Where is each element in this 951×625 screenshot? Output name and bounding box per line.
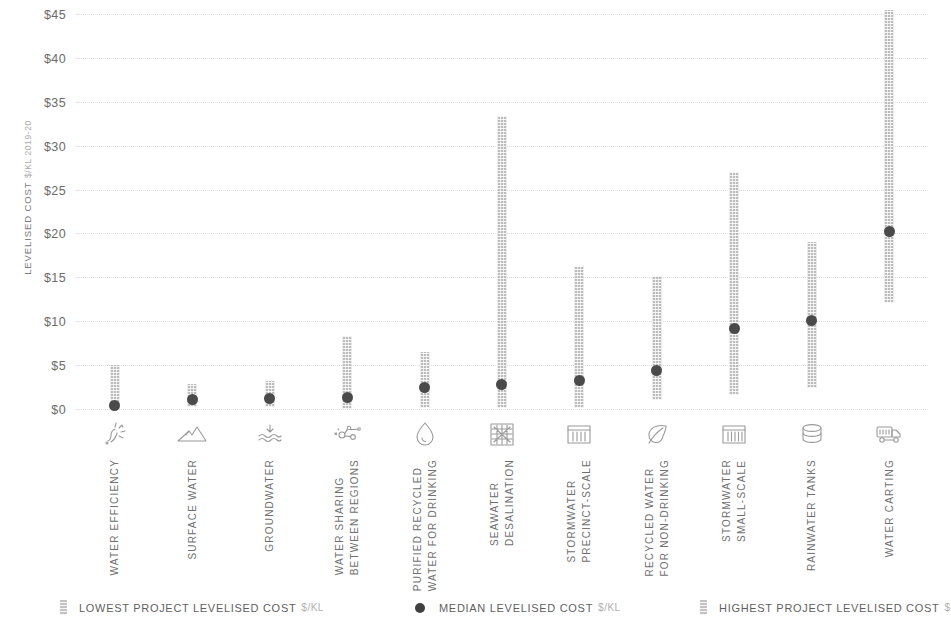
median-cost-dot <box>187 394 198 405</box>
median-cost-dot <box>419 382 430 393</box>
legend-unit: $ <box>944 602 950 613</box>
range-column <box>308 0 385 410</box>
category-axis-label: GROUNDWATER <box>262 459 277 552</box>
stormwater-small-scale-icon <box>694 415 774 453</box>
y-axis-tick-label: $45 <box>44 8 66 22</box>
category-label-wrap: SURFACE WATER <box>152 453 232 564</box>
y-axis-tick-label: $20 <box>44 227 66 241</box>
y-axis-title-unit: $/KL 2019-20 <box>23 120 33 178</box>
category-purified-recycled-water-for-drinking: PURIFIED RECYCLED WATER FOR DRINKING <box>385 415 465 595</box>
category-axis-label: RECYCLED WATER FOR NON-DRINKING <box>642 459 672 577</box>
category-surface-water: SURFACE WATER <box>152 415 232 564</box>
legend-label: LOWEST PROJECT LEVELISED COST <box>79 602 296 614</box>
category-label-wrap: WATER EFFICIENCY <box>75 453 155 579</box>
y-axis-title: LEVELISED COST $/KL 2019-20 <box>22 83 33 313</box>
category-label-wrap: PURIFIED RECYCLED WATER FOR DRINKING <box>385 453 465 595</box>
y-axis-tick-label: $0 <box>51 403 66 417</box>
water-droplet-icon <box>385 415 465 453</box>
legend-dot-swatch-icon <box>415 603 425 613</box>
legend-item: LOWEST PROJECT LEVELISED COST$/KL <box>60 600 415 615</box>
category-axis-label: WATER SHARING BETWEEN REGIONS <box>332 459 362 575</box>
median-cost-dot <box>884 226 895 237</box>
cost-range-bar <box>652 276 661 400</box>
category-axis-label: PURIFIED RECYCLED WATER FOR DRINKING <box>410 459 440 591</box>
cost-range-bar <box>730 172 739 395</box>
median-cost-dot <box>729 323 740 334</box>
range-column <box>76 0 153 410</box>
stormwater-precinct-icon <box>539 415 619 453</box>
range-column <box>231 0 308 410</box>
category-axis-label: SEAWATER DESALINATION <box>487 459 517 546</box>
groundwater-icon <box>230 415 310 453</box>
legend-item: HIGHEST PROJECT LEVELISED COST$ <box>700 600 934 615</box>
range-column <box>386 0 463 410</box>
category-label-wrap: WATER SHARING BETWEEN REGIONS <box>307 453 387 579</box>
range-column <box>773 0 850 410</box>
median-cost-dot <box>264 393 275 404</box>
legend-label: MEDIAN LEVELISED COST <box>439 602 593 614</box>
y-axis-tick-label: $35 <box>44 96 66 110</box>
category-axis-label: SURFACE WATER <box>185 459 200 560</box>
cost-range-bar <box>575 266 584 408</box>
category-axis-label: RAINWATER TANKS <box>804 459 819 571</box>
category-label-wrap: SEAWATER DESALINATION <box>462 453 542 550</box>
category-groundwater: GROUNDWATER <box>230 415 310 556</box>
legend-bar-swatch-icon <box>700 600 707 615</box>
plot-area: $0$5$10$15$20$25$30$35$40$45 <box>76 0 928 410</box>
cost-range-bar <box>885 10 894 303</box>
range-column <box>696 0 773 410</box>
rainwater-tank-icon <box>772 415 852 453</box>
y-axis-tick-label: $30 <box>44 140 66 154</box>
cost-range-bar <box>420 352 429 408</box>
water-carting-truck-icon <box>849 415 929 453</box>
cost-range-bar <box>497 116 506 408</box>
range-column <box>153 0 230 410</box>
y-axis-tick-label: $40 <box>44 52 66 66</box>
range-column <box>463 0 540 410</box>
category-axis-label: WATER CARTING <box>882 459 897 557</box>
category-label-wrap: WATER CARTING <box>849 453 929 561</box>
median-cost-dot <box>342 392 353 403</box>
recycled-leaf-icon <box>617 415 697 453</box>
median-cost-dot <box>109 400 120 411</box>
y-axis-tick-label: $5 <box>51 359 66 373</box>
category-water-efficiency: WATER EFFICIENCY <box>75 415 155 579</box>
category-rainwater-tanks: RAINWATER TANKS <box>772 415 852 575</box>
water-efficiency-icon <box>75 415 155 453</box>
legend-unit: $/KL <box>301 602 324 613</box>
legend-label: HIGHEST PROJECT LEVELISED COST <box>719 602 939 614</box>
category-label-wrap: RAINWATER TANKS <box>772 453 852 575</box>
chart-legend: LOWEST PROJECT LEVELISED COST$/KLMEDIAN … <box>60 600 934 615</box>
y-axis-tick-label: $15 <box>44 271 66 285</box>
range-column <box>541 0 618 410</box>
category-label-wrap: STORMWATER PRECINCT-SCALE <box>539 453 619 567</box>
category-label-wrap: STORMWATER SMALL-SCALE <box>694 453 774 546</box>
category-axis-label: WATER EFFICIENCY <box>107 459 122 575</box>
category-recycled-water-for-non-drinking: RECYCLED WATER FOR NON-DRINKING <box>617 415 697 581</box>
y-axis-tick-label: $10 <box>44 315 66 329</box>
water-sharing-network-icon <box>307 415 387 453</box>
category-label-wrap: RECYCLED WATER FOR NON-DRINKING <box>617 453 697 581</box>
legend-unit: $/KL <box>598 602 621 613</box>
y-axis-title-text: LEVELISED COST <box>22 182 33 275</box>
category-label-wrap: GROUNDWATER <box>230 453 310 556</box>
category-stormwater-small-scale: STORMWATER SMALL-SCALE <box>694 415 774 546</box>
category-water-sharing-between-regions: WATER SHARING BETWEEN REGIONS <box>307 415 387 579</box>
range-column <box>618 0 695 410</box>
range-column <box>851 0 928 410</box>
legend-bar-swatch-icon <box>60 600 67 615</box>
desalination-membrane-icon <box>462 415 542 453</box>
category-stormwater-precinct-scale: STORMWATER PRECINCT-SCALE <box>539 415 619 567</box>
category-water-carting: WATER CARTING <box>849 415 929 561</box>
legend-item: MEDIAN LEVELISED COST$/KL <box>415 602 700 614</box>
category-axis-label: STORMWATER SMALL-SCALE <box>719 459 749 542</box>
mountains-surface-water-icon <box>152 415 232 453</box>
category-seawater-desalination: SEAWATER DESALINATION <box>462 415 542 550</box>
y-axis-tick-label: $25 <box>44 184 66 198</box>
category-axis-label: STORMWATER PRECINCT-SCALE <box>564 459 594 563</box>
